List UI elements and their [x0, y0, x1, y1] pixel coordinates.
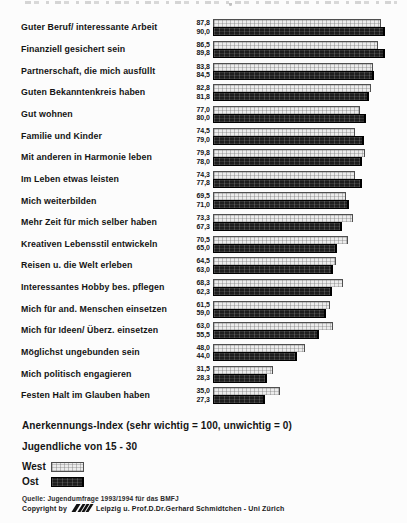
bar-pair — [213, 301, 405, 318]
category-label: Mich politisch engagieren — [21, 370, 185, 379]
value-labels: 70,565,0 — [185, 236, 210, 253]
category-label: Mich für and. Menschen einsetzen — [21, 305, 185, 314]
chart-row: Mich für Ideen/ Überz. einsetzen63,055,5 — [0, 320, 407, 342]
bar-ost — [213, 27, 385, 36]
value-label-ost: 44,0 — [185, 352, 210, 361]
value-label-ost: 27,3 — [185, 396, 210, 405]
category-label: Mehr Zeit für mich selber haben — [21, 218, 185, 227]
bar-west — [213, 171, 355, 179]
category-label: Kreativen Lebensstil entwickeln — [21, 240, 185, 249]
category-label: Guten Bekanntenkreis haben — [21, 88, 185, 97]
chart-row: Partnerschaft, die mich ausfüllt83,884,5 — [0, 60, 407, 82]
bar-ost — [213, 49, 385, 58]
bar-west — [213, 301, 330, 309]
value-labels: 64,563,0 — [185, 257, 210, 274]
value-labels: 48,044,0 — [185, 344, 210, 361]
legend-label-ost: Ost — [22, 477, 51, 487]
value-label-west: 79,8 — [185, 149, 210, 158]
chart-row: Mich für and. Menschen einsetzen61,559,0 — [0, 298, 407, 320]
value-label-west: 87,8 — [185, 19, 210, 28]
copyright-line: Copyright by Leipzig u. Prof.D.Dr.Gerhar… — [22, 504, 284, 512]
value-labels: 87,890,0 — [185, 19, 210, 36]
value-label-ost: 77,8 — [185, 179, 210, 188]
value-label-west: 31,5 — [185, 365, 210, 374]
value-label-ost: 65,0 — [185, 244, 210, 253]
category-label: Mit anderen in Harmonie leben — [21, 153, 185, 162]
value-label-ost: 90,0 — [185, 28, 210, 37]
axis-note: Anerkennungs-Index (sehr wichtig = 100, … — [22, 420, 292, 431]
value-label-ost: 79,0 — [185, 136, 210, 145]
value-labels: 68,362,3 — [185, 279, 210, 296]
publisher-logo — [71, 504, 92, 512]
bar-ost — [213, 157, 362, 166]
value-labels: 77,080,0 — [185, 106, 210, 123]
copyright-prefix: Copyright by — [22, 505, 67, 512]
category-label: Partnerschaft, die mich ausfüllt — [21, 67, 185, 76]
source-line: Quelle: Jugendumfrage 1993/1994 für das … — [22, 495, 179, 502]
bar-pair — [213, 387, 405, 404]
chart-row: Möglichst ungebunden sein48,044,0 — [0, 342, 407, 364]
value-label-west: 73,3 — [185, 214, 210, 223]
value-labels: 79,878,0 — [185, 149, 210, 166]
legend-label-west: West — [22, 462, 51, 472]
bar-west — [213, 192, 346, 200]
bar-west — [213, 128, 355, 136]
bar-west — [213, 279, 343, 287]
bar-pair — [213, 171, 405, 188]
bar-pair — [213, 344, 405, 361]
value-label-west: 69,5 — [185, 192, 210, 201]
cutoff-title-remnant — [25, 1, 397, 4]
chart-row: Familie und Kinder74,579,0 — [0, 125, 407, 147]
category-label: Mich weiterbilden — [21, 197, 185, 206]
value-label-ost: 67,3 — [185, 223, 210, 232]
bar-pair — [213, 149, 405, 166]
bar-west — [213, 63, 373, 71]
bar-pair — [213, 192, 405, 209]
value-label-west: 61,5 — [185, 301, 210, 310]
value-label-west: 35,0 — [185, 387, 210, 396]
category-label: Mich für Ideen/ Überz. einsetzen — [21, 326, 185, 335]
value-labels: 86,589,8 — [185, 41, 210, 58]
value-labels: 82,881,8 — [185, 84, 210, 101]
bar-ost — [213, 309, 326, 318]
chart-row: Mit anderen in Harmonie leben79,878,0 — [0, 147, 407, 169]
bar-west — [213, 106, 360, 114]
category-label: Im Leben etwas leisten — [21, 175, 185, 184]
bar-ost — [213, 200, 349, 209]
category-label: Guter Beruf/ interessante Arbeit — [21, 23, 185, 32]
bar-pair — [213, 128, 405, 145]
cutoff-title-descender — [229, 3, 232, 6]
bar-ost — [213, 179, 362, 188]
value-label-west: 64,5 — [185, 257, 210, 266]
bar-west — [213, 322, 333, 330]
value-label-west: 83,8 — [185, 63, 210, 72]
value-label-ost: 63,0 — [185, 266, 210, 275]
chart-row: Im Leben etwas leisten74,377,8 — [0, 168, 407, 190]
bar-ost — [213, 114, 366, 123]
value-labels: 61,559,0 — [185, 301, 210, 318]
value-label-ost: 89,8 — [185, 49, 210, 58]
bar-chart: Guter Beruf/ interessante Arbeit87,890,0… — [0, 17, 407, 407]
bar-west — [213, 214, 353, 222]
chart-row: Mich weiterbilden69,571,0 — [0, 190, 407, 212]
value-label-ost: 59,0 — [185, 309, 210, 318]
category-label: Möglichst ungebunden sein — [21, 348, 185, 357]
bar-ost — [213, 265, 333, 274]
legend-swatch-ost — [51, 477, 84, 487]
chart-row: Mich politisch engagieren31,528,3 — [0, 363, 407, 385]
bar-west — [213, 19, 381, 27]
chart-row: Guten Bekanntenkreis haben82,881,8 — [0, 82, 407, 104]
bar-west — [213, 387, 280, 395]
bar-ost — [213, 244, 337, 253]
legend-item-west: West — [22, 461, 84, 472]
bar-pair — [213, 106, 405, 123]
bar-pair — [213, 279, 405, 296]
bar-west — [213, 41, 378, 49]
category-label: Reisen u. die Welt erleben — [21, 261, 185, 270]
bar-west — [213, 366, 273, 374]
bar-ost — [213, 92, 369, 101]
bar-pair — [213, 41, 405, 58]
chart-row: Mehr Zeit für mich selber haben73,367,3 — [0, 212, 407, 234]
bar-pair — [213, 236, 405, 253]
value-label-west: 74,5 — [185, 127, 210, 136]
